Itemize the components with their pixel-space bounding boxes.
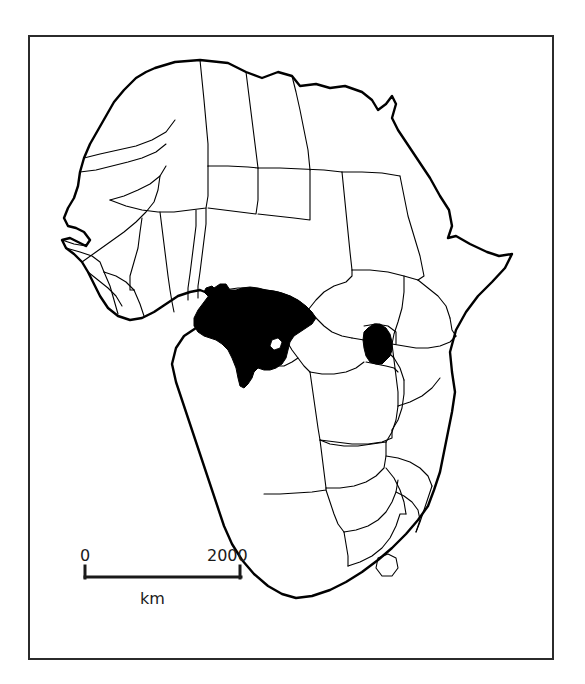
africa-map-figure: 0 2000 km [0, 0, 585, 684]
highlighted-region-east [363, 324, 392, 364]
africa-map-graphic [0, 0, 585, 684]
scale-min-label: 0 [80, 548, 90, 564]
scale-bar [85, 566, 241, 578]
scale-unit-label: km [140, 591, 165, 607]
scale-max-label: 2000 [207, 548, 248, 564]
